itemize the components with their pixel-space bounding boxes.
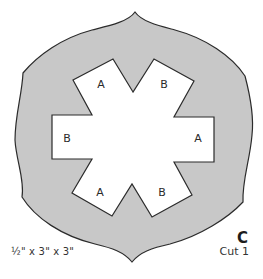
- pattern-diagram: A B B A A B: [0, 0, 263, 279]
- tab-label-top-left: A: [97, 78, 105, 91]
- cut-instruction: Cut 1: [220, 245, 249, 258]
- tab-label-bottom-right: B: [158, 186, 166, 199]
- tab-label-top-right: B: [160, 78, 168, 91]
- tab-label-bottom-left: A: [96, 186, 104, 199]
- tab-label-left: B: [63, 132, 71, 145]
- piece-dimensions: ½" x 3" x 3": [11, 246, 74, 257]
- tab-label-right: A: [194, 132, 202, 145]
